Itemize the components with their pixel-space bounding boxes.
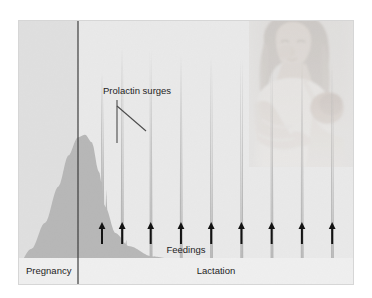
prolactin-lactation-figure: Prolactin surges Feedings Pregnancy Lact… [0,0,372,298]
paper-grain [18,20,354,285]
plot-area: Prolactin surges Feedings Pregnancy Lact… [18,13,354,285]
prolactin-chart: Prolactin surges Feedings Pregnancy Lact… [0,0,372,298]
